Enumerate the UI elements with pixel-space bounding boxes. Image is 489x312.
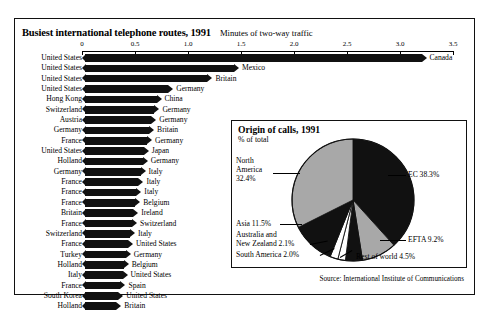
x-axis: 00.51.01.52.02.53.03.5 bbox=[82, 40, 454, 52]
bar-origin-label: Hong Kong bbox=[46, 94, 82, 104]
bar-destination-label: Britain bbox=[124, 301, 145, 311]
bar-destination-label: United States bbox=[136, 239, 177, 249]
bar-shape bbox=[82, 302, 121, 310]
bar-head-arrow bbox=[422, 54, 427, 62]
bar-origin-label: South Korea bbox=[44, 291, 82, 301]
bar-origin-label: United States bbox=[41, 74, 82, 84]
bar-shape bbox=[82, 261, 129, 269]
bar-head-arrow bbox=[141, 167, 146, 175]
bar-head-arrow bbox=[157, 95, 162, 103]
bar-head-arrow bbox=[130, 229, 135, 237]
leader-ec bbox=[388, 175, 406, 176]
pie-title: Origin of calls, 1991 bbox=[238, 124, 320, 135]
axis-tick-label: 3.0 bbox=[396, 40, 405, 48]
bar-destination-label: Germany bbox=[159, 115, 187, 125]
bar-origin-label: United States bbox=[41, 146, 82, 156]
bar-origin-label: Turkey bbox=[60, 250, 82, 260]
bar-origin-label: Switzerland bbox=[46, 105, 82, 115]
bar-body bbox=[85, 85, 168, 93]
bar-body bbox=[85, 147, 144, 155]
bar-head-arrow bbox=[116, 302, 121, 310]
bar-destination-label: Ireland bbox=[141, 208, 163, 218]
bar-destination-label: United States bbox=[131, 270, 172, 280]
source-note: Source: International Institute of Commu… bbox=[319, 275, 464, 283]
bar-row: United StatesMexico bbox=[15, 63, 476, 73]
bar-head-arrow bbox=[143, 157, 148, 165]
leader-efta bbox=[380, 240, 406, 241]
bar-destination-label: Germany bbox=[176, 84, 204, 94]
bar-destination-label: United States bbox=[126, 291, 167, 301]
bar-shape bbox=[82, 199, 140, 207]
bar-destination-label: Britain bbox=[157, 125, 178, 135]
bar-head-arrow bbox=[118, 292, 123, 300]
axis-tick-label: 3.5 bbox=[449, 40, 458, 48]
bar-destination-label: Britain bbox=[215, 74, 236, 84]
bar-body bbox=[85, 271, 123, 279]
bar-head-arrow bbox=[126, 250, 131, 258]
bar-row: SwitzerlandGermany bbox=[15, 105, 476, 115]
bar-destination-label: Mexico bbox=[242, 63, 265, 73]
bar-head-arrow bbox=[132, 219, 137, 227]
bar-destination-label: Italy bbox=[149, 167, 163, 177]
bar-row: Hong KongChina bbox=[15, 94, 476, 104]
bar-destination-label: Germany bbox=[162, 105, 190, 115]
bar-destination-label: Germany bbox=[155, 136, 183, 146]
pie-subtitle: % of total bbox=[238, 135, 269, 144]
bar-shape bbox=[82, 137, 152, 145]
bar-origin-label: France bbox=[61, 136, 82, 146]
bar-destination-label: Spain bbox=[128, 281, 145, 291]
axis-tick-label: 1.5 bbox=[237, 40, 246, 48]
bar-shape bbox=[82, 147, 149, 155]
bar-origin-label: Holland bbox=[58, 156, 82, 166]
bar-body bbox=[85, 178, 138, 186]
bar-body bbox=[85, 158, 143, 166]
bar-destination-label: Japan bbox=[152, 146, 169, 156]
bar-destination-label: Belgium bbox=[132, 260, 158, 270]
bar-head-arrow bbox=[138, 178, 143, 186]
bar-destination-label: Belgium bbox=[143, 198, 169, 208]
bar-head-arrow bbox=[120, 281, 125, 289]
bar-destination-label: Switzerland bbox=[140, 219, 176, 229]
bar-head-arrow bbox=[133, 209, 138, 217]
bar-body bbox=[85, 240, 128, 248]
bar-body bbox=[85, 209, 133, 217]
bar-body bbox=[85, 137, 147, 145]
bar-shape bbox=[82, 54, 427, 62]
bar-body bbox=[85, 292, 118, 300]
bar-head-arrow bbox=[123, 271, 128, 279]
bar-body bbox=[85, 189, 136, 197]
axis-tick-label: 1.0 bbox=[184, 40, 193, 48]
pie-chart bbox=[290, 137, 416, 263]
bar-shape bbox=[82, 220, 137, 228]
bar-shape bbox=[82, 158, 148, 166]
bar-body bbox=[85, 220, 132, 228]
chart-subtitle: Minutes of two-way traffic bbox=[220, 28, 313, 38]
bar-origin-label: Austria bbox=[60, 115, 82, 125]
pie-label-efta: EFTA 9.2% bbox=[408, 236, 444, 245]
bar-body bbox=[85, 54, 422, 62]
bar-shape bbox=[82, 292, 123, 300]
axis-tick-label: 2.5 bbox=[343, 40, 352, 48]
bar-origin-label: France bbox=[61, 239, 82, 249]
bar-shape bbox=[82, 271, 128, 279]
bar-shape bbox=[82, 168, 146, 176]
bar-body bbox=[85, 96, 157, 104]
bar-body bbox=[85, 230, 130, 238]
bar-origin-label: France bbox=[61, 177, 82, 187]
bar-head-arrow bbox=[135, 198, 140, 206]
bar-destination-label: Germany bbox=[151, 156, 179, 166]
bar-body bbox=[85, 168, 141, 176]
figure-panel: Busiest international telephone routes, … bbox=[14, 18, 475, 295]
bar-head-arrow bbox=[144, 147, 149, 155]
bar-origin-label: Holland bbox=[58, 301, 82, 311]
bar-destination-label: Germany bbox=[134, 250, 162, 260]
bar-body bbox=[85, 106, 154, 114]
bar-body bbox=[85, 302, 116, 310]
bar-shape bbox=[82, 127, 154, 135]
bar-head-arrow bbox=[124, 260, 129, 268]
axis-tick-label: 0.5 bbox=[131, 40, 140, 48]
bar-shape bbox=[82, 178, 143, 186]
pie-label-australia-nz: Australia and New Zealand 2.1% bbox=[236, 231, 294, 249]
bar-shape bbox=[82, 209, 138, 217]
bar-origin-label: Germany bbox=[54, 125, 82, 135]
